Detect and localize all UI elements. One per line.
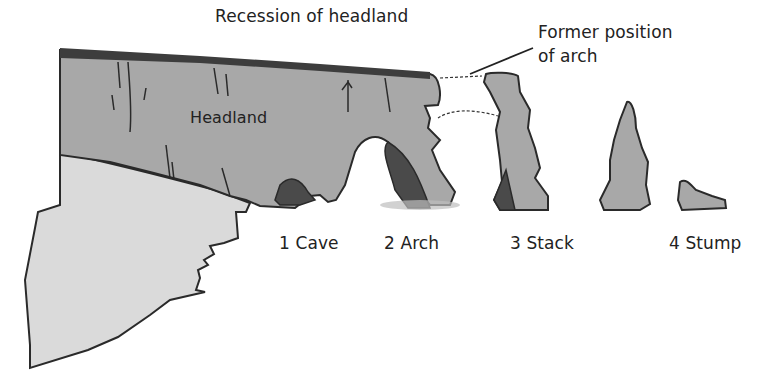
stage-label-arch: 2 Arch — [384, 233, 439, 253]
former-arch-label-line1: Former position — [538, 22, 673, 42]
diagram-canvas — [0, 0, 766, 379]
stage-label-stack: 3 Stack — [510, 233, 574, 253]
recession-label: Recession of headland — [215, 6, 408, 26]
stage-label-cave: 1 Cave — [279, 233, 339, 253]
coastal-erosion-diagram: Recession of headland Former position of… — [0, 0, 766, 379]
headland-label: Headland — [190, 108, 267, 127]
stump-4 — [678, 181, 726, 210]
stack-pinnacle — [600, 102, 650, 210]
former-arch-label-line2: of arch — [538, 46, 598, 66]
stage-label-stump: 4 Stump — [669, 233, 742, 253]
former-arch-pointer — [470, 48, 533, 74]
stack-3 — [484, 73, 548, 210]
